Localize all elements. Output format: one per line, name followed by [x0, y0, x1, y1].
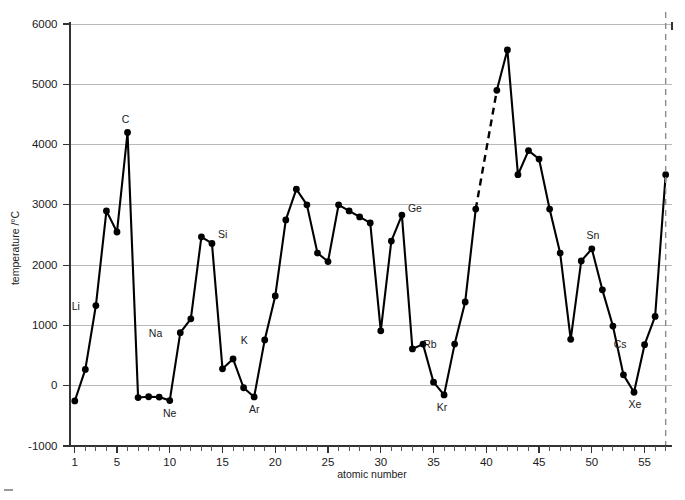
y-tick-label-5000: 5000: [32, 78, 58, 90]
data-point-z31: [388, 238, 395, 245]
data-point-z52: [610, 323, 617, 330]
y-tick-label-4000: 4000: [32, 138, 58, 150]
point-label-Xe: Xe: [629, 398, 642, 410]
y-axis-title: temperature /°C: [9, 210, 21, 285]
data-point-z47: [557, 250, 564, 257]
y-tick-label--1000: -1000: [28, 440, 57, 452]
x-tick-label-30: 30: [374, 456, 387, 468]
data-point-z13: [198, 233, 205, 240]
point-label-Ne: Ne: [163, 407, 177, 419]
data-point-z21: [282, 217, 289, 224]
x-tick-label-25: 25: [322, 456, 335, 468]
data-point-z25: [325, 258, 332, 265]
data-point-z50: [588, 245, 595, 252]
x-tick-label-20: 20: [269, 456, 282, 468]
point-label-Rb: Rb: [423, 338, 437, 350]
data-point-z42: [504, 47, 511, 54]
data-point-z15: [219, 365, 226, 372]
x-tick-label-45: 45: [533, 456, 546, 468]
data-point-z37: [451, 341, 458, 348]
point-label-Ge: Ge: [408, 202, 422, 214]
data-point-z11: [177, 329, 184, 336]
point-label-Sn: Sn: [586, 229, 599, 241]
data-point-z38: [462, 299, 469, 306]
chart-container: LiCNeNaSiArKGeKrRbSnCsXe -10000100020003…: [0, 0, 685, 500]
data-point-z24: [314, 250, 321, 257]
data-point-z30: [377, 327, 384, 334]
y-tick-label-3000: 3000: [32, 198, 58, 210]
data-point-z29: [367, 220, 374, 227]
x-tick-label-10: 10: [163, 456, 176, 468]
data-point-z41: [493, 87, 500, 94]
x-tick-label-5: 5: [114, 456, 120, 468]
point-label-Cs: Cs: [614, 338, 627, 350]
point-label-Si: Si: [218, 228, 227, 240]
data-point-z33: [409, 346, 416, 353]
x-tick-label-55: 55: [638, 456, 651, 468]
data-point-z4: [103, 207, 110, 214]
data-point-z26: [335, 201, 342, 208]
x-tick-label-35: 35: [427, 456, 440, 468]
y-tick-label-1000: 1000: [32, 319, 58, 331]
data-point-z44: [525, 147, 532, 154]
y-tick-label-6000: 6000: [32, 18, 58, 30]
data-point-z32: [398, 212, 405, 219]
data-point-z20: [272, 292, 279, 299]
x-tick-label-40: 40: [480, 456, 493, 468]
data-point-z16: [230, 355, 237, 362]
data-point-z27: [346, 207, 353, 214]
data-point-z22: [293, 186, 300, 193]
x-tick-label-1: 1: [72, 456, 78, 468]
corner-artifact-mark: [4, 489, 13, 491]
x-tick-label-50: 50: [585, 456, 598, 468]
y-tick-label-2000: 2000: [32, 259, 58, 271]
data-point-z7: [135, 394, 142, 401]
boiling-point-vs-atomic-number-chart: LiCNeNaSiArKGeKrRbSnCsXe -10000100020003…: [0, 0, 685, 500]
data-point-z18: [251, 394, 258, 401]
x-tick-label-15: 15: [216, 456, 229, 468]
data-point-z9: [156, 394, 163, 401]
data-point-z56: [652, 313, 659, 320]
data-point-z12: [187, 315, 194, 322]
data-point-z23: [304, 201, 311, 208]
y-tick-label-0: 0: [51, 379, 57, 391]
data-point-z14: [209, 240, 216, 247]
data-point-z3: [92, 302, 99, 309]
data-point-z49: [578, 258, 585, 265]
data-point-z5: [114, 229, 121, 236]
data-point-z1: [71, 398, 78, 405]
point-label-Ar: Ar: [249, 403, 260, 415]
point-label-C: C: [122, 113, 130, 125]
data-point-z6: [124, 129, 131, 136]
point-label-Kr: Kr: [437, 401, 448, 413]
point-label-Na: Na: [149, 327, 163, 339]
data-point-z17: [240, 384, 247, 391]
data-point-z8: [145, 393, 152, 400]
point-label-K: K: [241, 334, 248, 346]
data-point-z10: [166, 397, 173, 404]
x-axis-title: atomic number: [337, 468, 407, 480]
data-point-z43: [515, 171, 522, 178]
data-point-z39: [472, 206, 479, 213]
data-point-z51: [599, 286, 606, 293]
data-point-z48: [567, 336, 574, 343]
data-point-z28: [356, 214, 363, 221]
data-point-z55: [641, 341, 648, 348]
data-point-z2: [82, 366, 89, 373]
data-point-z19: [261, 337, 268, 344]
data-point-z36: [441, 391, 448, 398]
data-point-z35: [430, 379, 437, 386]
data-point-z53: [620, 371, 627, 378]
data-point-z54: [631, 389, 638, 396]
data-point-z45: [536, 156, 543, 163]
point-label-Li: Li: [72, 300, 80, 312]
data-point-z46: [546, 206, 553, 213]
